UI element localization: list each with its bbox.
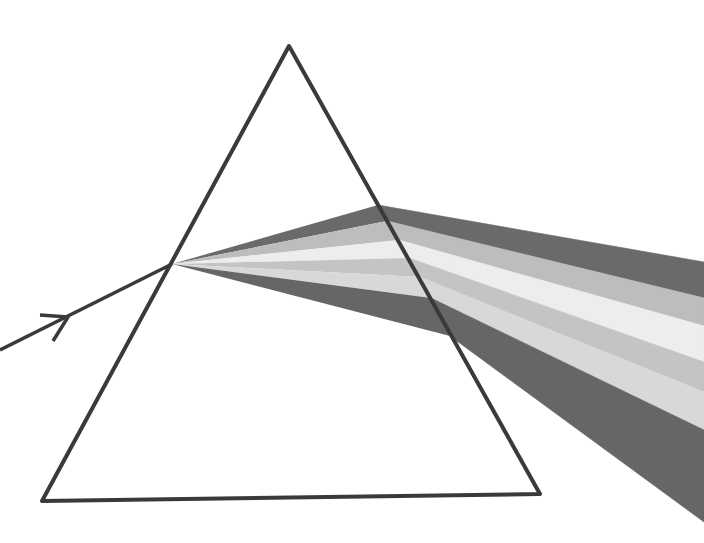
- prism-diagram: White light ray refracted and dispersed …: [0, 0, 704, 543]
- diagram-canvas: [0, 0, 704, 543]
- dispersed-beam: [172, 205, 704, 522]
